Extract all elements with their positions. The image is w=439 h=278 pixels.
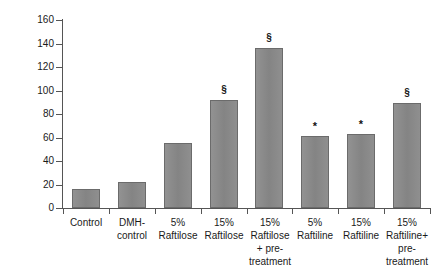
- y-tick-mark: [56, 44, 62, 45]
- bar-chart: my mol 020406080100120140160 §§**§ Contr…: [0, 0, 439, 278]
- x-axis-category-label: 5% Raftiline: [292, 216, 338, 242]
- bar: [347, 134, 375, 208]
- bar: [393, 103, 421, 208]
- y-tick-label: 40: [0, 156, 54, 166]
- significance-marker: §: [204, 85, 244, 95]
- x-axis-category-label: 15% Raftilose + pre- treatment: [247, 216, 293, 268]
- y-tick-label-text: 0: [2, 203, 54, 213]
- x-axis-category-label: 5% Raftilose: [155, 216, 201, 242]
- y-tick-label-text: 80: [2, 109, 54, 119]
- x-tick-mark: [430, 209, 431, 214]
- x-tick-mark: [247, 209, 248, 214]
- y-tick-label-text: 160: [2, 15, 54, 25]
- x-tick-mark: [292, 209, 293, 214]
- y-tick-label: 140: [0, 39, 54, 49]
- x-tick-mark: [63, 209, 64, 214]
- y-tick-mark: [56, 114, 62, 115]
- x-axis-category-label: DMH- control: [109, 216, 155, 242]
- x-tick-mark: [384, 209, 385, 214]
- y-tick-label: 0: [0, 203, 54, 213]
- y-tick-label-text: 60: [2, 133, 54, 143]
- x-tick-mark: [155, 209, 156, 214]
- y-tick-mark: [56, 20, 62, 21]
- x-axis-category-label: 15% Raftiline: [338, 216, 384, 242]
- y-axis-line: [62, 19, 63, 209]
- significance-marker: §: [387, 88, 427, 98]
- y-tick-label: 20: [0, 180, 54, 190]
- y-tick-label-text: 120: [2, 62, 54, 72]
- y-tick-mark: [56, 67, 62, 68]
- significance-marker: §: [249, 33, 289, 43]
- x-tick-mark: [338, 209, 339, 214]
- y-tick-label-text: 140: [2, 39, 54, 49]
- y-tick-label: 160: [0, 15, 54, 25]
- y-tick-label: 60: [0, 133, 54, 143]
- y-tick-label: 100: [0, 86, 54, 96]
- significance-marker: *: [295, 121, 335, 131]
- y-tick-label-text: 40: [2, 156, 54, 166]
- y-tick-label-text: 100: [2, 86, 54, 96]
- x-axis-category-label: 15% Raftilose: [201, 216, 247, 242]
- y-tick-mark: [56, 91, 62, 92]
- x-tick-mark: [201, 209, 202, 214]
- y-tick-mark: [56, 138, 62, 139]
- bar: [118, 182, 146, 208]
- x-tick-mark: [109, 209, 110, 214]
- y-tick-label: 80: [0, 109, 54, 119]
- y-tick-label-text: 20: [2, 180, 54, 190]
- significance-marker: *: [341, 119, 381, 129]
- bar: [301, 136, 329, 208]
- y-tick-mark: [56, 161, 62, 162]
- bar: [255, 48, 283, 208]
- y-tick-mark: [56, 185, 62, 186]
- y-tick-label: 120: [0, 62, 54, 72]
- bar: [210, 100, 238, 208]
- x-axis-category-label: Control: [63, 216, 109, 229]
- bar: [164, 143, 192, 208]
- y-tick-mark: [56, 208, 62, 209]
- x-axis-category-label: 15% Raftiline+ pre- treatment: [384, 216, 430, 268]
- bar: [72, 189, 100, 208]
